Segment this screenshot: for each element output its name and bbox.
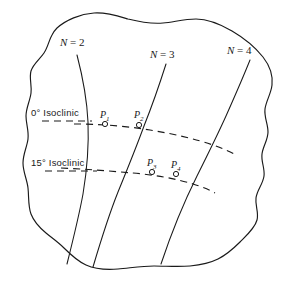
point-label-p4-var: P (170, 159, 177, 170)
point-marker-p2 (136, 122, 141, 127)
fringe-label-n4-value: = 4 (234, 44, 252, 56)
point-label-p1-var: P (99, 109, 106, 120)
fringe-label-n4: N = 4 (226, 44, 252, 56)
point-label-p1-sub: 1 (106, 115, 110, 123)
point-label-p2-sub: 2 (140, 115, 144, 123)
fringe-label-n2-value: = 2 (67, 36, 84, 48)
isoclinic-label-0deg: 0° Isoclinic (31, 107, 79, 118)
fringe-label-n2: N = 2 (59, 36, 85, 48)
diagram-canvas: N = 2 N = 3 N = 4 0° Isoclinic 15° Isocl… (0, 0, 288, 290)
fringe-label-n3-value: = 3 (157, 48, 175, 60)
point-label-p3-sub: 3 (152, 163, 157, 171)
point-label-p4-sub: 4 (177, 165, 181, 173)
point-label-p2-var: P (133, 109, 140, 120)
figure-container: N = 2 N = 3 N = 4 0° Isoclinic 15° Isocl… (0, 0, 288, 290)
point-label-p3-var: P (146, 157, 153, 168)
isoclinic-label-15deg: 15° Isoclinic (31, 157, 84, 168)
fringe-label-n3: N = 3 (149, 48, 175, 60)
